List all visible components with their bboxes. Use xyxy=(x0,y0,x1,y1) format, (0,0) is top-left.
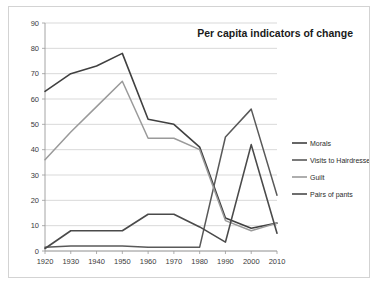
y-tick-label: 90 xyxy=(31,19,39,28)
y-tick-label: 20 xyxy=(31,196,39,205)
chart-legend: MoralsVisits to HairdresserGuiltPairs of… xyxy=(292,140,369,199)
y-tick-label: 10 xyxy=(31,221,39,230)
y-tick-label: 80 xyxy=(31,44,39,53)
legend-label-pairs-of-pants: Pairs of pants xyxy=(310,191,353,199)
legend-label-guilt: Guilt xyxy=(310,174,324,181)
y-tick-label: 50 xyxy=(31,120,39,129)
x-tick-label: 1990 xyxy=(217,257,234,266)
series-line-guilt xyxy=(45,81,277,230)
x-tick-label: 2010 xyxy=(269,257,286,266)
x-axis-tick-labels: 1920193019401950196019701980199020002010 xyxy=(37,251,286,266)
series-line-pairs-of-pants xyxy=(45,145,277,249)
y-tick-label: 40 xyxy=(31,145,39,154)
axes xyxy=(45,23,277,251)
legend-label-morals: Morals xyxy=(310,140,332,147)
x-tick-label: 1920 xyxy=(37,257,54,266)
chart-figure: 0102030405060708090 19201930194019501960… xyxy=(8,6,370,278)
x-tick-label: 1930 xyxy=(62,257,79,266)
legend-label-visits-to-hairdresser: Visits to Hairdresser xyxy=(310,157,369,164)
x-tick-label: 2000 xyxy=(243,257,260,266)
gridlines xyxy=(45,23,277,251)
y-tick-label: 0 xyxy=(35,247,39,256)
x-tick-label: 1940 xyxy=(88,257,105,266)
y-tick-label: 70 xyxy=(31,69,39,78)
y-axis-tick-labels: 0102030405060708090 xyxy=(31,19,45,256)
y-tick-label: 60 xyxy=(31,95,39,104)
x-tick-label: 1980 xyxy=(191,257,208,266)
line-chart: 0102030405060708090 19201930194019501960… xyxy=(9,7,369,277)
y-tick-label: 30 xyxy=(31,171,39,180)
series-line-morals xyxy=(45,53,277,228)
x-tick-label: 1960 xyxy=(140,257,157,266)
data-series-group xyxy=(45,53,277,248)
chart-title: Per capita indicators of change xyxy=(197,27,353,39)
x-tick-label: 1950 xyxy=(114,257,131,266)
x-tick-label: 1970 xyxy=(166,257,183,266)
